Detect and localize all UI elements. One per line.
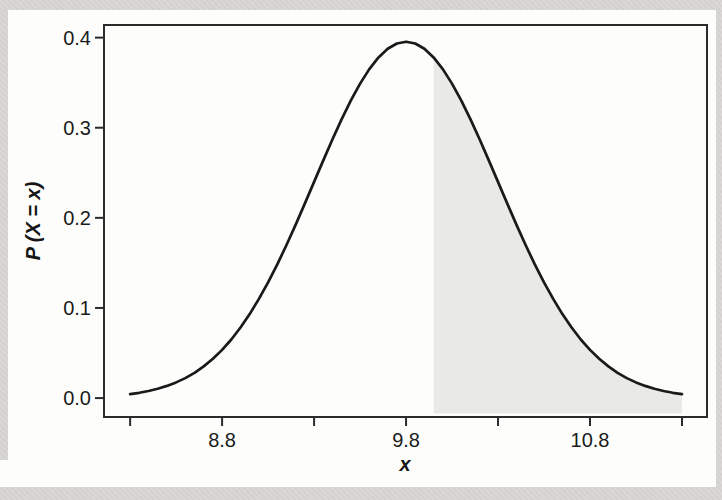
- chart-panel: 8.89.810.80.00.10.20.30.4 x P (X = x): [0, 0, 722, 500]
- y-tick-label: 0.1: [63, 297, 91, 319]
- x-tick-label: 9.8: [392, 429, 420, 451]
- distribution-plot: 8.89.810.80.00.10.20.30.4: [0, 0, 722, 500]
- plot-frame: [104, 25, 707, 417]
- density-curve: [130, 42, 682, 394]
- shaded-area: [434, 57, 682, 413]
- y-tick-label: 0.0: [63, 387, 91, 409]
- x-tick-label: 8.8: [208, 429, 236, 451]
- x-tick-label: 10.8: [571, 429, 610, 451]
- y-axis-title: P (X = x): [22, 182, 45, 261]
- y-tick-label: 0.3: [63, 117, 91, 139]
- scanned-page: { "page": { "background_color": "#d8d7d3…: [0, 0, 722, 500]
- y-tick-label: 0.2: [63, 207, 91, 229]
- y-tick-label: 0.4: [63, 27, 91, 49]
- x-axis-title: x: [399, 453, 410, 476]
